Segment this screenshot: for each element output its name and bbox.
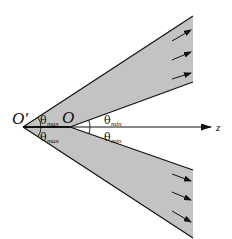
label-theta-min-upper: θ [104, 114, 111, 127]
label-theta-max-lower-sub: max [47, 137, 60, 145]
label-theta-min-upper-sub: min [111, 120, 122, 128]
label-o-prime: O′ [12, 109, 28, 128]
label-theta-min-lower-sub: min [111, 137, 122, 145]
label-theta-min-lower: θ [104, 131, 111, 144]
beam-diagram: O′ O z θ max θ max θ min θ min [0, 0, 232, 239]
theta-min-arc-upper [89, 120, 90, 127]
label-o: O [62, 108, 74, 127]
label-theta-max-upper-sub: max [47, 120, 60, 128]
theta-min-arc-lower [89, 127, 90, 134]
label-z: z [215, 121, 221, 133]
label-theta-max-lower: θ [40, 131, 47, 144]
label-theta-max-upper: θ [40, 114, 47, 127]
